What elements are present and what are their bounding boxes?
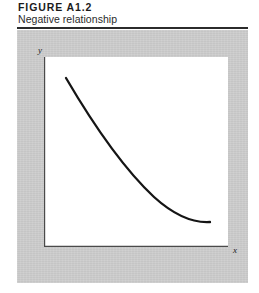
negative-relationship-curve	[66, 78, 210, 222]
x-axis-label: x	[233, 246, 237, 255]
figure-container: FIGURE A1.2 Negative relationship y x	[0, 0, 259, 293]
plot-area	[44, 57, 228, 247]
plot-svg	[44, 57, 228, 247]
figure-caption: FIGURE A1.2 Negative relationship	[18, 0, 244, 26]
figure-subtitle: Negative relationship	[18, 13, 244, 26]
figure-number: FIGURE A1.2	[18, 1, 244, 13]
caption-divider	[17, 27, 248, 29]
y-axis-label: y	[38, 46, 42, 55]
figure-panel: y x	[17, 30, 248, 283]
